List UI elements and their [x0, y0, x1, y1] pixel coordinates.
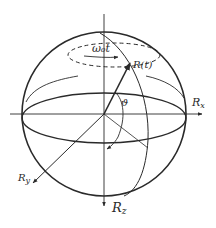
angle-label: ϑ: [121, 97, 128, 108]
axis-y-label: Ry: [17, 172, 31, 185]
precession-label: ω₀t: [92, 42, 110, 55]
y-axis: [33, 114, 104, 183]
sphere-diagram: ω₀t R(t) ϑ Rx Ry Rz: [0, 0, 216, 228]
axis-x-label: Rx: [191, 96, 205, 110]
axis-z-label: Rz: [111, 200, 127, 216]
precession-arrow: [84, 56, 118, 57]
vector-label: R(t): [132, 59, 152, 70]
